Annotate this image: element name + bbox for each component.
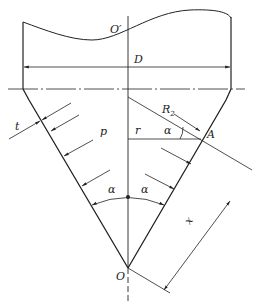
apex-normal-line — [128, 268, 170, 293]
cone-right-side — [128, 89, 231, 268]
label-r2: R2 — [161, 103, 175, 118]
pressure-arrow — [51, 115, 79, 131]
label-radius: r — [135, 124, 141, 137]
label-thickness: t — [15, 120, 20, 133]
pressure-arrow — [64, 140, 93, 156]
r2-normal-line — [128, 97, 252, 170]
label-pressure: p — [100, 125, 107, 138]
pressure-arrow — [42, 103, 71, 120]
pressure-arrow — [145, 174, 174, 189]
label-alpha-top: α — [164, 124, 172, 137]
r2-leader-arrow — [174, 114, 200, 131]
wavy-break-line — [23, 10, 231, 40]
label-point-a: A — [206, 128, 215, 141]
thickness-dimension-line — [9, 121, 40, 139]
label-alpha-right: α — [141, 183, 149, 196]
label-diameter: D — [133, 53, 143, 66]
arc-center-dot — [126, 195, 130, 199]
label-o-prime: O′ — [110, 23, 122, 36]
conical-head-diagram: O′ D t p r α A R2 α α O x — [0, 0, 259, 303]
cone-left-side — [23, 89, 128, 268]
pressure-arrow — [161, 148, 191, 164]
label-alpha-left: α — [108, 183, 116, 196]
x-dimension-line — [164, 201, 230, 290]
label-apex: O — [116, 270, 125, 283]
pressure-arrow — [82, 170, 110, 186]
label-distance-x: x — [182, 214, 197, 227]
